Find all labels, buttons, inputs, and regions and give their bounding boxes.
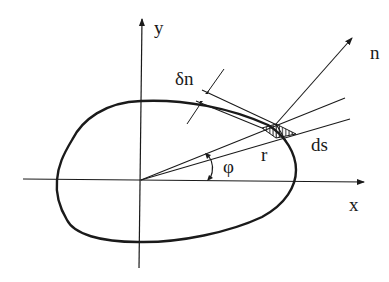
angle-arc xyxy=(205,153,213,181)
normal-label: n xyxy=(370,43,380,62)
x-axis xyxy=(23,179,364,182)
radius-label: r xyxy=(261,145,267,164)
arc-element-label: ds xyxy=(311,135,328,154)
displaced-tangent xyxy=(196,90,277,128)
closed-curve xyxy=(57,101,296,242)
x-axis-label: x xyxy=(349,195,359,214)
diagram-figure: y n δn φ r ds x xyxy=(0,0,389,282)
normal-arrow xyxy=(276,38,352,141)
diagram-canvas xyxy=(0,0,389,282)
angle-phi-label: φ xyxy=(223,157,234,176)
y-axis-label: y xyxy=(154,18,164,37)
delta-n-label: δn xyxy=(175,69,193,88)
y-axis xyxy=(139,19,142,268)
